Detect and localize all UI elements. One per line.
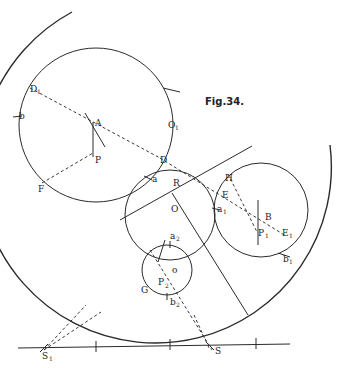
label-o-small: o bbox=[172, 265, 177, 275]
label-r: R bbox=[173, 178, 180, 188]
label-a-lower: a bbox=[152, 174, 158, 184]
label-d1-sub: 1 bbox=[37, 88, 41, 95]
label-o1-sub: 1 bbox=[175, 124, 179, 131]
base-line bbox=[18, 344, 290, 348]
figure-title: Fig.34. bbox=[205, 96, 244, 107]
geometry-diagram: Fig.34. D 1 b A P O 1 F D a R O H E a 1 … bbox=[0, 0, 338, 368]
label-p2: P bbox=[158, 277, 164, 287]
tick-s bbox=[206, 342, 214, 350]
label-s: S bbox=[215, 346, 221, 356]
label-b1-sub: 1 bbox=[289, 258, 293, 265]
label-p2-sub: 2 bbox=[165, 282, 169, 289]
line-perpendicular-1 bbox=[120, 146, 252, 220]
label-p1-sub: 1 bbox=[265, 232, 269, 239]
label-f: F bbox=[38, 184, 44, 194]
dashed-line-s1-a bbox=[44, 305, 86, 350]
label-o-center: O bbox=[171, 204, 178, 214]
label-g: G bbox=[141, 285, 148, 295]
label-a1-sub: 1 bbox=[223, 208, 227, 215]
label-a2-sub: 2 bbox=[176, 235, 180, 242]
large-arc bbox=[0, 12, 331, 343]
label-b: b bbox=[19, 111, 25, 121]
dashed-line-to-s bbox=[150, 250, 212, 350]
label-e: E bbox=[222, 190, 229, 200]
label-e1-sub: 1 bbox=[289, 232, 293, 239]
label-a: A bbox=[94, 118, 102, 128]
dashed-line-f-p bbox=[42, 153, 93, 183]
label-b-center: B bbox=[265, 212, 272, 222]
label-b2-sub: 2 bbox=[176, 301, 180, 308]
line-perpendicular-2 bbox=[172, 193, 248, 315]
label-p1: P bbox=[258, 228, 264, 238]
label-e1: E bbox=[282, 228, 289, 238]
label-s1-sub: 1 bbox=[49, 355, 53, 362]
label-d: D bbox=[160, 155, 167, 165]
label-h: H bbox=[225, 173, 233, 183]
label-p: P bbox=[95, 155, 101, 165]
label-s1: S bbox=[42, 351, 48, 361]
